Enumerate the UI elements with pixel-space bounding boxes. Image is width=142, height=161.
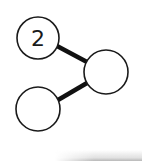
bottom-shadow — [55, 150, 142, 161]
edge-node3-node2 — [58, 83, 87, 100]
node-2[interactable] — [84, 50, 128, 94]
diagram-canvas: 2 — [0, 0, 142, 161]
node-1[interactable]: 2 — [17, 17, 59, 59]
graph-diagram: 2 — [0, 0, 142, 161]
edge-node1-node2 — [57, 46, 87, 62]
node-1-label: 2 — [31, 26, 45, 51]
node-3[interactable] — [16, 87, 60, 131]
